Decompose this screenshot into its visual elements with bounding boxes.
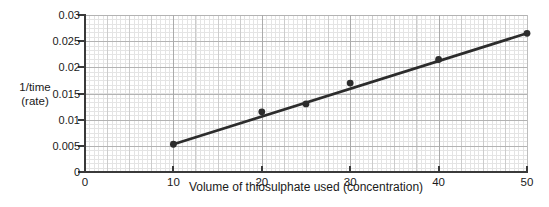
x-tick-mark	[84, 166, 86, 173]
x-axis-title: Volume of thiosulphate used (concentrati…	[85, 180, 527, 194]
y-tick-label: 0.005	[18, 139, 80, 153]
y-tick-label: 0.025	[18, 34, 80, 48]
x-tick-mark	[526, 166, 528, 173]
y-tick-label: 0.02	[18, 60, 80, 74]
x-tick-mark	[261, 166, 263, 173]
x-tick-mark	[438, 166, 440, 173]
plot-area	[85, 15, 528, 172]
rate-vs-volume-chart: 00.0050.010.0150.020.0250.03 01020304050…	[0, 0, 549, 207]
y-tick-label: 0.01	[18, 113, 80, 127]
y-axis-title: 1/time (rate)	[6, 80, 64, 108]
x-tick-mark	[172, 166, 174, 173]
y-tick-label: 0.03	[18, 8, 80, 22]
x-tick-mark	[349, 166, 351, 173]
x-axis-line	[84, 171, 528, 173]
